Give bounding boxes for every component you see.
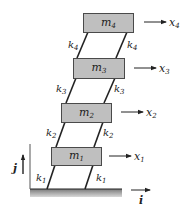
spring-k2-left [56,122,65,147]
displacement-label-x3: x3 [159,62,170,76]
displacement-label-x4: x4 [169,16,180,30]
diagram-svg: k1k1k2k2k3k3k4k4 m1m2m3m4 x1x2x3x4 ij [0,0,189,211]
spring-k2-right [94,122,103,147]
spring-k1-left [47,165,55,189]
spring-label-k4-left: k4 [68,39,79,52]
i-axis-label: i [139,194,143,207]
spring-label-k2-right: k2 [103,127,114,140]
spring-label-k1-right: k1 [96,172,107,185]
spring-label-k2-left: k2 [46,127,57,140]
spring-label-k1-left: k1 [36,172,47,185]
spring-k3-left [66,78,76,103]
displacement-label-x1: x1 [134,150,145,164]
shear-building-diagram: k1k1k2k2k3k3k4k4 m1m2m3m4 x1x2x3x4 ij [0,0,189,211]
j-axis-label: j [11,162,17,175]
spring-k4-left [77,32,88,58]
spring-label-k3-left: k3 [56,83,67,96]
spring-label-k3-right: k3 [114,83,125,96]
spring-label-k4-right: k4 [127,39,138,52]
ground-hatch [30,189,122,197]
spring-k1-right [85,165,93,189]
spring-k4-right [116,32,127,58]
displacement-label-x2: x2 [146,106,157,120]
